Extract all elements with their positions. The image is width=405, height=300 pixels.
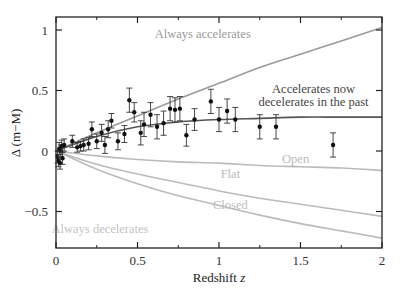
data-point [154,115,160,139]
x-tick-label: 1 [216,253,223,268]
y-axis-label: Δ (m−M) [8,109,23,158]
data-point [216,107,222,131]
data-point [105,121,111,138]
curve-label: Closed [213,198,248,212]
x-tick-label: 2 [379,253,386,268]
curve-label: Always accelerates [155,27,251,41]
x-tick-label: 1.5 [292,253,308,268]
y-tick-label: −0.5 [24,204,48,219]
curve-label: decelerates in the past [259,95,370,109]
data-point [208,89,214,113]
data-point [126,88,132,112]
data-point [330,133,336,157]
x-axis-label: Redshift z [193,270,245,285]
data-point [148,103,154,127]
curve-label: Accelerates now [272,82,355,96]
x-tick-label: 0.5 [129,253,145,268]
data-point [161,111,167,135]
curve-label: Always decelerates [52,222,149,236]
y-tick-label: 1 [42,23,49,38]
data-point [99,124,105,141]
cosmology-hubble-residual-chart: Always acceleratesAccelerates nowdeceler… [0,0,405,300]
data-point [192,109,198,131]
y-tick-label: 0.5 [32,83,48,98]
x-tick-label: 0 [53,253,60,268]
data-point [131,103,137,122]
data-point [183,124,189,146]
data-point [232,107,238,131]
y-tick-label: 0 [42,144,49,159]
curve-label: Open [282,152,310,166]
plot-svg: Always acceleratesAccelerates nowdeceler… [0,0,405,300]
data-point [115,133,121,150]
data-point [102,136,108,153]
data-point [177,97,183,121]
data-point [167,97,173,121]
curve-label: Flat [221,167,241,181]
